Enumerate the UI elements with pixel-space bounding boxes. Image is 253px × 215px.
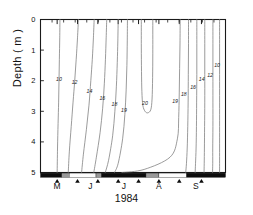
contour-label-19-7: 19: [172, 98, 178, 104]
contour-label-14-2: 14: [87, 88, 93, 94]
y-tick-label-3: 3: [22, 107, 36, 116]
y-tick-label-1: 1: [22, 46, 36, 55]
sampling-bar-segment-gray-1: [62, 173, 69, 177]
contour-line-14-2: [82, 20, 95, 173]
contour-line-19-5: [115, 20, 128, 173]
sampling-bar-segment-black-7: [187, 173, 226, 177]
contour-line-14-10: [204, 20, 205, 173]
contour-line-18-4: [105, 20, 118, 173]
sampling-bar-segment-white-6: [159, 173, 187, 177]
x-axis-marker-triangle-1: [75, 179, 80, 183]
y-tick-label-4: 4: [22, 137, 36, 146]
plot-layer: [41, 20, 226, 183]
contour-label-16-9: 16: [190, 84, 196, 90]
contour-label-18-4: 18: [112, 101, 118, 107]
y-tick-label-5: 5: [22, 168, 36, 177]
sampling-bar-segment-black-0: [41, 173, 62, 177]
contour-line-19-7: [122, 20, 180, 173]
contour-label-18-8: 18: [181, 91, 187, 97]
contour-label-20-6: 20: [142, 100, 148, 106]
x-tick-label-3: A: [152, 181, 166, 191]
x-axis-title: 1984: [0, 192, 253, 204]
figure-container: Depth ( m ) 1984 012345 MJJAS 1012141618…: [0, 0, 253, 215]
x-tick-label-0: M: [50, 181, 64, 191]
sampling-bar-segment-white-2: [69, 173, 96, 177]
sampling-bar-segment-black-4: [102, 173, 146, 177]
y-tick-label-2: 2: [22, 76, 36, 85]
x-tick-label-1: J: [83, 181, 97, 191]
contour-label-19-5: 19: [121, 107, 127, 113]
x-axis-marker-triangle-4: [136, 179, 141, 183]
contour-label-12-11: 12: [207, 72, 213, 78]
contour-label-10-12: 10: [214, 62, 220, 68]
x-axis-marker-triangle-6: [177, 179, 182, 183]
contour-line-12-1: [68, 20, 78, 173]
contour-label-16-3: 16: [99, 95, 105, 101]
contour-line-10-0: [57, 20, 60, 173]
contour-line-16-9: [195, 20, 197, 173]
sampling-bar-segment-gray-5: [146, 173, 159, 177]
y-tick-label-0: 0: [22, 15, 36, 24]
plot-frame: [41, 20, 226, 173]
contour-label-12-1: 12: [72, 79, 78, 85]
contour-label-10-0: 10: [56, 76, 62, 82]
contour-label-14-10: 14: [199, 76, 205, 82]
x-tick-label-4: S: [189, 181, 203, 191]
x-tick-label-2: J: [117, 181, 131, 191]
sampling-bar-segment-gray-3: [96, 173, 102, 177]
